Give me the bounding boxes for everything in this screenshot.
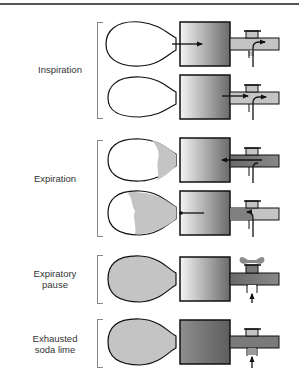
bag <box>108 77 176 117</box>
row-inspiration-1 <box>106 22 279 67</box>
valve-housing <box>246 265 258 273</box>
tube <box>230 155 279 167</box>
soda-lime-canister-exhausted <box>180 320 230 364</box>
bag <box>108 319 176 365</box>
tube <box>230 336 279 348</box>
soda-lime-canister <box>180 257 230 301</box>
valve-housing <box>246 329 258 336</box>
valve-housing <box>246 148 258 155</box>
row-expiratory-pause <box>108 256 279 303</box>
valve-housing <box>246 31 258 38</box>
valve-housing <box>246 85 258 92</box>
bag <box>106 22 176 66</box>
fresh-gas-inlet <box>248 285 256 293</box>
soda-lime-canister <box>180 75 230 119</box>
row-expiration-2 <box>108 191 279 237</box>
bag <box>108 256 176 302</box>
circuit-diagram <box>0 0 299 379</box>
tube <box>230 273 279 285</box>
valve-housing <box>246 201 258 208</box>
row-expiration-1 <box>108 138 279 183</box>
row-exhausted-soda-lime <box>108 319 279 368</box>
fresh-gas-inlet <box>248 348 256 355</box>
vented-gas <box>240 257 265 264</box>
row-inspiration-2 <box>108 75 279 120</box>
